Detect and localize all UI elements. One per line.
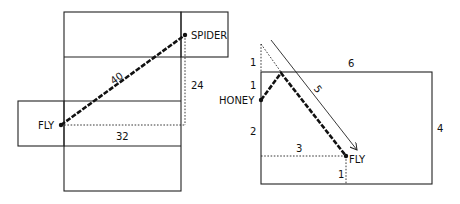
fly-point [59, 123, 63, 127]
honey-point [259, 98, 263, 102]
length-5-arrow [271, 40, 357, 150]
fly-point [344, 154, 348, 158]
fly-label: FLY [349, 154, 366, 165]
left-unfolded-room: SPIDER FLY 40 24 32 [18, 12, 228, 191]
fly-label: FLY [38, 120, 55, 131]
right-reflection-diagram: HONEY FLY 6 4 5 1 1 2 3 1 [219, 40, 443, 184]
reflected-path [261, 44, 281, 72]
horizontal-length-label: 32 [116, 131, 129, 142]
room-rectangle [261, 72, 432, 184]
left-upper-label: 1 [250, 80, 256, 91]
left-upper-outside-label: 1 [250, 57, 256, 68]
bottom-vertical-label: 1 [338, 169, 344, 180]
top-length-label: 6 [348, 58, 354, 69]
left-lower-label: 2 [250, 126, 256, 137]
vertical-length-label: 24 [191, 80, 204, 91]
honey-fly-path [261, 73, 346, 156]
arrow-length-label: 5 [312, 83, 325, 95]
spider-point [183, 33, 187, 37]
diagram-canvas: SPIDER FLY 40 24 32 HONEY FLY 6 4 5 1 1 … [0, 0, 460, 204]
honey-label: HONEY [219, 95, 255, 106]
bottom-horizontal-label: 3 [296, 143, 302, 154]
right-length-label: 4 [437, 123, 443, 134]
diagonal-length-label: 40 [108, 70, 125, 86]
spider-label: SPIDER [191, 30, 227, 41]
